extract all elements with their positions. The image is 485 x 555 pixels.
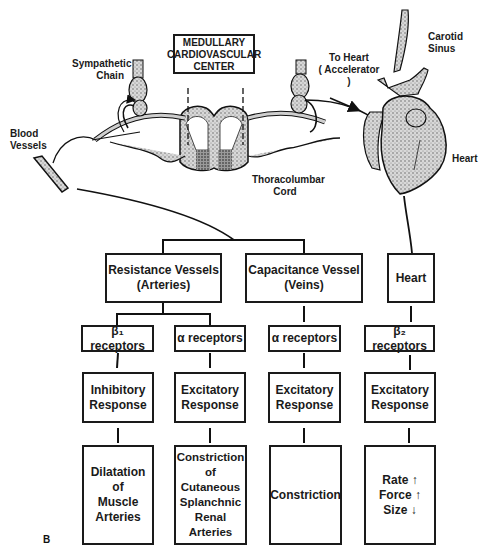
excitatory-response-arteries-box: Excitatory Response	[174, 372, 246, 423]
heart-rate-force-size-box: Rate ↑ Force ↑ Size ↓	[364, 445, 436, 545]
capacitance-vessel-box: Capacitance Vessel (Veins)	[245, 253, 363, 303]
constriction-cutaneous-splanchnic-renal-box: Constriction of Cutaneous Splanchnic Ren…	[174, 445, 247, 545]
alpha-receptors-veins-box: α receptors	[268, 325, 341, 352]
thoracolumbar-cord-label: Thoracolumbar Cord	[252, 174, 318, 198]
constriction-veins-box: Constriction	[269, 445, 342, 545]
dilatation-muscle-arteries-box: Dilatation of Muscle Arteries	[82, 445, 154, 545]
beta2-receptors-box: β₂ receptors	[364, 325, 435, 352]
carotid-sinus-label: Carotid Sinus	[428, 31, 468, 55]
resistance-vessels-box: Resistance Vessels (Arteries)	[105, 253, 222, 303]
sympathetic-chain-label: Sympathetic Chain	[72, 58, 124, 82]
alpha-receptors-arteries-box: α receptors	[174, 325, 246, 352]
to-heart-accelerator-label: To Heart ( Accelerator )	[318, 52, 380, 88]
spinal-cord-icon	[180, 88, 248, 170]
inhibitory-response-box: Inhibitory Response	[82, 372, 154, 423]
medullary-center-box: MEDULLARY CARDIOVASCULAR CENTER	[173, 34, 255, 74]
excitatory-response-veins-box: Excitatory Response	[268, 372, 341, 423]
accelerator-arrow-icon	[330, 98, 358, 110]
figure-letter: B	[43, 534, 50, 545]
heart-label: Heart	[452, 153, 482, 165]
heart-box: Heart	[387, 253, 435, 303]
excitatory-response-heart-box: Excitatory Response	[364, 372, 436, 423]
blood-vessels-label: Blood Vessels	[10, 128, 54, 152]
beta1-receptors-box: β₁ receptors	[81, 325, 154, 352]
